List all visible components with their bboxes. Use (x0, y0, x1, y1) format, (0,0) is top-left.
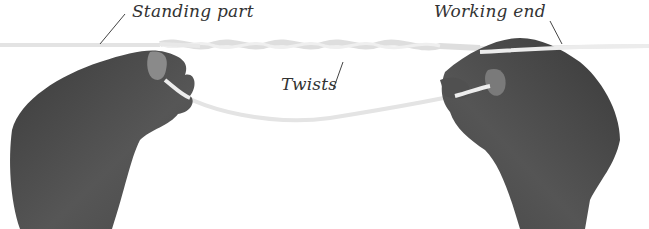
working-end-leader (550, 21, 562, 44)
twists-label: Twists (281, 74, 337, 94)
knot-diagram: Standing part Twists Working end (0, 0, 649, 229)
standing-part-leader (100, 14, 125, 44)
illustration (0, 0, 649, 229)
working-end-label: Working end (434, 1, 546, 21)
left-hand (10, 50, 195, 229)
standing-part-label: Standing part (132, 1, 254, 21)
right-hand (440, 38, 620, 229)
